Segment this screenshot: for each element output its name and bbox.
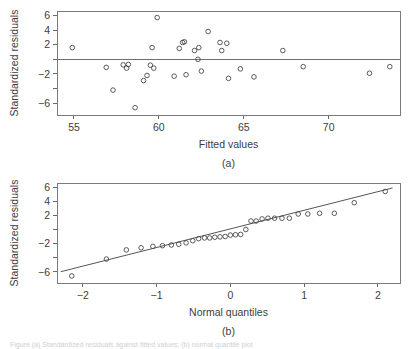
data-point (150, 45, 155, 50)
data-point (238, 232, 243, 237)
x-tick-label: 70 (323, 121, 335, 133)
data-point (172, 74, 177, 79)
x-axis-title: Normal quantiles (189, 306, 268, 318)
panel-b-plot-area: 642−2−6−2−1012Normal quantilesStandardiz… (8, 180, 400, 337)
data-point (252, 75, 257, 80)
x-tick-label: 60 (153, 121, 165, 133)
panel-b-svg: 642−2−6−2−1012Normal quantilesStandardiz… (0, 170, 417, 349)
data-point (139, 245, 144, 250)
residual-diagnostics-figure: 642−2−655606570Fitted valuesStandardized… (0, 0, 417, 349)
data-point (70, 45, 75, 50)
data-point (287, 216, 292, 221)
data-point (184, 241, 189, 246)
data-point (225, 41, 230, 46)
figure-bottom-caption: Figure (a) Standardized residuals agains… (0, 341, 417, 349)
data-point (301, 64, 306, 69)
panel-a-residuals-vs-fitted: 642−2−655606570Fitted valuesStandardized… (0, 0, 417, 172)
data-point (218, 40, 223, 45)
y-tick-label: 4 (44, 195, 50, 207)
data-point (219, 48, 224, 53)
data-point (218, 235, 223, 240)
plot-box (57, 183, 400, 283)
x-tick-label: −2 (77, 289, 89, 301)
data-point (196, 45, 201, 50)
data-point (281, 48, 286, 53)
data-point (213, 235, 218, 240)
data-point (145, 73, 150, 78)
y-tick-label: −6 (38, 97, 50, 109)
plot-box (57, 11, 400, 115)
data-point (332, 211, 337, 216)
data-point (155, 15, 160, 20)
x-tick-label: 2 (375, 289, 381, 301)
data-point (206, 29, 211, 34)
y-tick-label: 2 (44, 38, 50, 50)
qq-reference-line (61, 188, 393, 272)
data-point (238, 67, 243, 72)
data-point (190, 238, 195, 243)
data-point (207, 236, 212, 241)
data-point (367, 71, 372, 76)
y-tick-label: 6 (44, 181, 50, 193)
data-point (69, 274, 74, 279)
panel-a-svg: 642−2−655606570Fitted valuesStandardized… (0, 0, 417, 172)
x-tick-label: 1 (301, 289, 307, 301)
data-point (317, 211, 322, 216)
data-point (280, 216, 285, 221)
data-point (233, 232, 238, 237)
data-point (202, 236, 207, 241)
panel-caption: (a) (222, 157, 235, 169)
y-tick-label: 4 (44, 24, 50, 36)
data-point (141, 78, 146, 83)
data-point (306, 212, 311, 217)
data-point (199, 69, 204, 74)
y-axis-title: Standardized residuals (8, 180, 20, 287)
data-point (133, 105, 138, 110)
data-point (223, 234, 228, 239)
x-tick-label: 0 (227, 289, 233, 301)
x-tick-label: −1 (151, 289, 163, 301)
data-point (226, 76, 231, 81)
x-tick-label: 55 (68, 121, 80, 133)
panel-b-normal-quantile-plot: 642−2−6−2−1012Normal quantilesStandardiz… (0, 170, 417, 349)
x-axis-title: Fitted values (199, 138, 259, 150)
data-point (244, 227, 249, 232)
y-tick-label: 2 (44, 209, 50, 221)
data-point (192, 48, 197, 53)
panel-a-plot-area: 642−2−655606570Fitted valuesStandardized… (8, 9, 400, 169)
data-point (151, 66, 156, 71)
data-point (184, 72, 189, 77)
data-point (388, 64, 393, 69)
data-point (296, 212, 301, 217)
y-tick-label: −6 (38, 266, 50, 278)
data-point (111, 88, 116, 93)
data-point (177, 46, 182, 51)
data-point (104, 65, 109, 70)
panel-caption: (b) (222, 325, 235, 337)
data-point (176, 242, 181, 247)
data-point (249, 219, 254, 224)
data-point (352, 200, 357, 205)
y-tick-label: 6 (44, 9, 50, 21)
data-point (228, 233, 233, 238)
y-tick-label: −2 (38, 68, 50, 80)
x-tick-label: 65 (238, 121, 250, 133)
data-point (124, 248, 129, 253)
y-axis-title: Standardized residuals (8, 10, 20, 117)
y-tick-label: −2 (38, 237, 50, 249)
